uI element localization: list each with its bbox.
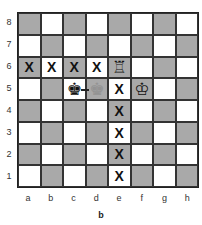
- square-d7: [86, 35, 109, 57]
- square-g3: [153, 122, 176, 144]
- square-b8: [41, 13, 64, 35]
- file-label: e: [108, 193, 130, 203]
- white-rook-icon: ♖: [112, 59, 127, 76]
- ghost-king-icon: ♚: [89, 81, 104, 98]
- square-e6: ♖: [108, 57, 131, 79]
- square-d2: [86, 144, 109, 166]
- white-king-icon: ♔: [134, 81, 149, 98]
- rank-label: 1: [4, 171, 14, 181]
- square-g8: [153, 13, 176, 35]
- attacked-mark: X: [115, 125, 124, 141]
- square-d4: [86, 100, 109, 122]
- square-h1: [176, 165, 199, 187]
- rank-label: 4: [4, 105, 14, 115]
- square-d5: ♚: [86, 78, 109, 100]
- diagram-caption: b: [0, 210, 202, 220]
- file-label: f: [131, 193, 153, 203]
- square-b3: [41, 122, 64, 144]
- attacked-mark: X: [115, 146, 124, 162]
- rank-label: 5: [4, 83, 14, 93]
- square-d1: [86, 165, 109, 187]
- file-label: c: [63, 193, 85, 203]
- square-c6: X: [63, 57, 86, 79]
- square-a6: X: [18, 57, 41, 79]
- square-g5: [153, 78, 176, 100]
- square-b2: [41, 144, 64, 166]
- square-f3: [131, 122, 154, 144]
- square-d8: [86, 13, 109, 35]
- attacked-mark: X: [115, 168, 124, 184]
- square-d3: [86, 122, 109, 144]
- file-label: d: [85, 193, 107, 203]
- square-f8: [131, 13, 154, 35]
- attacked-mark: X: [47, 59, 56, 75]
- square-b4: [41, 100, 64, 122]
- attacked-mark: X: [115, 81, 124, 97]
- square-c8: [63, 13, 86, 35]
- square-e3: X: [108, 122, 131, 144]
- square-f1: [131, 165, 154, 187]
- square-h2: [176, 144, 199, 166]
- square-g1: [153, 165, 176, 187]
- square-b6: X: [41, 57, 64, 79]
- move-arrow: [81, 89, 89, 91]
- square-e4: X: [108, 100, 131, 122]
- square-f6: [131, 57, 154, 79]
- square-f7: [131, 35, 154, 57]
- square-e7: [108, 35, 131, 57]
- attacked-mark: X: [115, 103, 124, 119]
- square-a1: [18, 165, 41, 187]
- square-b1: [41, 165, 64, 187]
- square-c2: [63, 144, 86, 166]
- square-h5: [176, 78, 199, 100]
- square-b5: [41, 78, 64, 100]
- square-h4: [176, 100, 199, 122]
- square-h8: [176, 13, 199, 35]
- attacked-mark: X: [70, 59, 79, 75]
- square-g6: [153, 57, 176, 79]
- square-a8: [18, 13, 41, 35]
- square-g2: [153, 144, 176, 166]
- rank-label: 6: [4, 61, 14, 71]
- square-d6: X: [86, 57, 109, 79]
- square-e2: X: [108, 144, 131, 166]
- rank-label: 8: [4, 17, 14, 27]
- square-h6: [176, 57, 199, 79]
- square-c1: [63, 165, 86, 187]
- square-f2: [131, 144, 154, 166]
- file-label: g: [154, 193, 176, 203]
- square-e8: [108, 13, 131, 35]
- black-king-icon: ♚: [67, 81, 82, 98]
- square-a7: [18, 35, 41, 57]
- square-c4: [63, 100, 86, 122]
- rank-label: 2: [4, 149, 14, 159]
- square-e5: X: [108, 78, 131, 100]
- square-a2: [18, 144, 41, 166]
- attacked-mark: X: [92, 59, 101, 75]
- file-label: b: [40, 193, 62, 203]
- square-b7: [41, 35, 64, 57]
- attacked-mark: X: [25, 59, 34, 75]
- square-a5: [18, 78, 41, 100]
- file-label: h: [176, 193, 198, 203]
- chess-board: XXXX♖♚♚X♔XXXX: [17, 12, 199, 188]
- rank-label: 3: [4, 127, 14, 137]
- square-h3: [176, 122, 199, 144]
- square-f4: [131, 100, 154, 122]
- square-g4: [153, 100, 176, 122]
- square-g7: [153, 35, 176, 57]
- square-c7: [63, 35, 86, 57]
- square-a4: [18, 100, 41, 122]
- square-e1: X: [108, 165, 131, 187]
- square-h7: [176, 35, 199, 57]
- square-c3: [63, 122, 86, 144]
- square-f5: ♔: [131, 78, 154, 100]
- file-label: a: [17, 193, 39, 203]
- square-a3: [18, 122, 41, 144]
- rank-label: 7: [4, 39, 14, 49]
